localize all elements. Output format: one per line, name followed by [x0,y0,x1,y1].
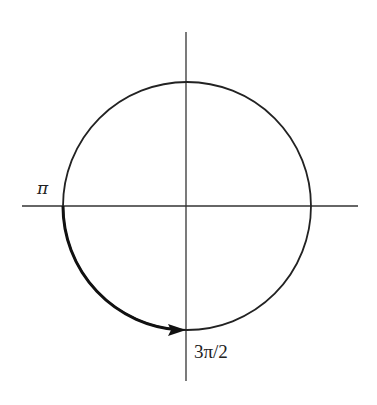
arc-pi-to-3pi-over-2 [63,206,180,330]
unit-circle-diagram [0,0,377,405]
label-3pi-over-2: 3π/2 [194,341,228,363]
label-pi: π [37,178,48,198]
